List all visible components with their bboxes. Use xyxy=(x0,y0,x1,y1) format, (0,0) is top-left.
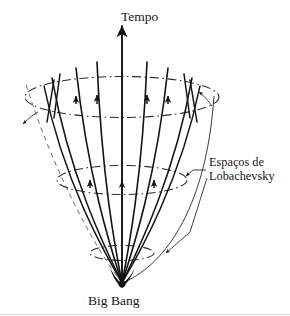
worldline-f5 xyxy=(52,78,122,283)
lobachevsky-label-line2: Lobachevsky xyxy=(209,170,275,184)
lobachevsky-spaces-label: Espaços deLobachevsky xyxy=(209,156,275,184)
leader-upper xyxy=(186,170,206,176)
worldline-f8 xyxy=(122,86,200,283)
worldline-f2 xyxy=(97,62,122,283)
leader-left-hook xyxy=(23,112,38,124)
worldline-f6 xyxy=(122,78,192,283)
leader-top-hook xyxy=(199,92,212,106)
figure-root: Tempo Big Bang Espaços deLobachevsky xyxy=(0,0,290,316)
worldline-f3 xyxy=(122,62,147,283)
worldlines xyxy=(44,26,200,283)
lobachevsky-label-line1: Espaços de xyxy=(209,156,275,170)
bigbang-label: Big Bang xyxy=(88,293,139,308)
time-axis-label: Tempo xyxy=(121,9,158,24)
